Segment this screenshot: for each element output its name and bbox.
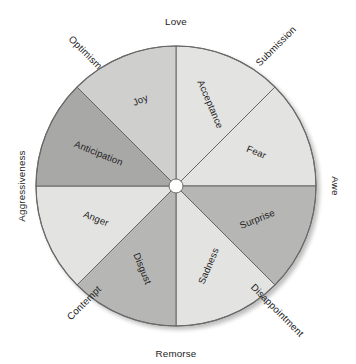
dyad-label-optimism: Optimism — [67, 33, 105, 71]
dyad-label-love: Love — [165, 16, 187, 27]
dyad-label-submission: Submission — [253, 24, 298, 69]
emotion-wheel-svg: AcceptanceFearSurpriseSadnessDisgustAnge… — [0, 0, 356, 364]
wheel-center-hub — [169, 179, 183, 193]
dyad-label-aggressiveness: Aggressiveness — [16, 150, 27, 221]
dyad-label-awe: Awe — [330, 176, 341, 196]
emotion-wheel-figure: AcceptanceFearSurpriseSadnessDisgustAnge… — [0, 0, 356, 364]
dyad-label-disappointment: Disappointment — [249, 281, 306, 338]
dyad-label-remorse: Remorse — [156, 348, 197, 359]
